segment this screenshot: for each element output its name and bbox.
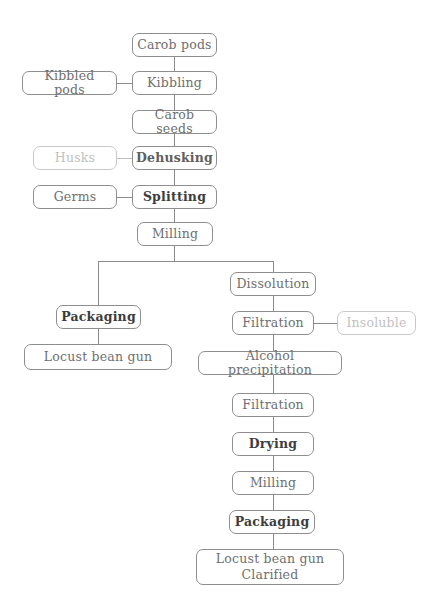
edge-husks-to-dehusking (117, 158, 132, 159)
edge-packaging-right-to-clarified (273, 534, 274, 549)
node-husks[interactable]: Husks (33, 146, 117, 170)
node-carob-pods[interactable]: Carob pods (132, 33, 217, 57)
flowchart-canvas: Carob podsKibblingKibbled podsCarob seed… (0, 0, 437, 616)
node-insoluble[interactable]: Insoluble (337, 311, 416, 335)
node-carob-seeds[interactable]: Carob seeds (132, 110, 217, 134)
node-splitting[interactable]: Splitting (132, 185, 217, 209)
edge-kibbled-pods-to-kibbling (117, 83, 132, 84)
node-kibbled-pods[interactable]: Kibbled pods (22, 71, 117, 95)
edge-alcohol-to-filtration2 (273, 375, 274, 393)
node-alcohol-precipitation[interactable]: Alcohol precipitation (198, 351, 342, 375)
node-kibbling[interactable]: Kibbling (132, 71, 217, 95)
node-filtration-1[interactable]: Filtration (232, 311, 314, 335)
node-germs[interactable]: Germs (33, 185, 117, 209)
edge-branch-horizontal (98, 261, 274, 262)
edge-branch-to-dissolution (273, 261, 274, 272)
node-filtration-2[interactable]: Filtration (232, 393, 314, 417)
node-locust-bean-gum-clarified[interactable]: Locust bean gunClarified (196, 549, 344, 585)
edge-germs-to-splitting (117, 197, 132, 198)
edge-packaging-left-to-gum (98, 329, 99, 344)
node-packaging-right[interactable]: Packaging (229, 510, 315, 534)
edge-splitting-to-milling (174, 209, 175, 222)
node-milling-right[interactable]: Milling (232, 471, 314, 495)
edge-milling-to-branch (174, 246, 175, 262)
node-dehusking[interactable]: Dehusking (132, 146, 217, 170)
edge-carob-pods-to-kibbling (174, 57, 175, 71)
edge-dissolution-to-filtration1 (273, 296, 274, 311)
edge-dehusking-to-splitting (174, 170, 175, 185)
node-locust-bean-gum[interactable]: Locust bean gun (24, 344, 172, 370)
node-packaging-left[interactable]: Packaging (56, 305, 141, 329)
edge-filtration2-to-drying (273, 417, 274, 432)
edge-branch-to-packaging-left (98, 261, 99, 305)
edge-drying-to-milling-right (273, 456, 274, 471)
node-drying[interactable]: Drying (232, 432, 314, 456)
edge-milling-right-to-packaging-right (273, 495, 274, 510)
node-milling-left[interactable]: Milling (137, 222, 213, 246)
node-dissolution[interactable]: Dissolution (230, 272, 316, 296)
edge-filtration1-to-insoluble (314, 323, 337, 324)
